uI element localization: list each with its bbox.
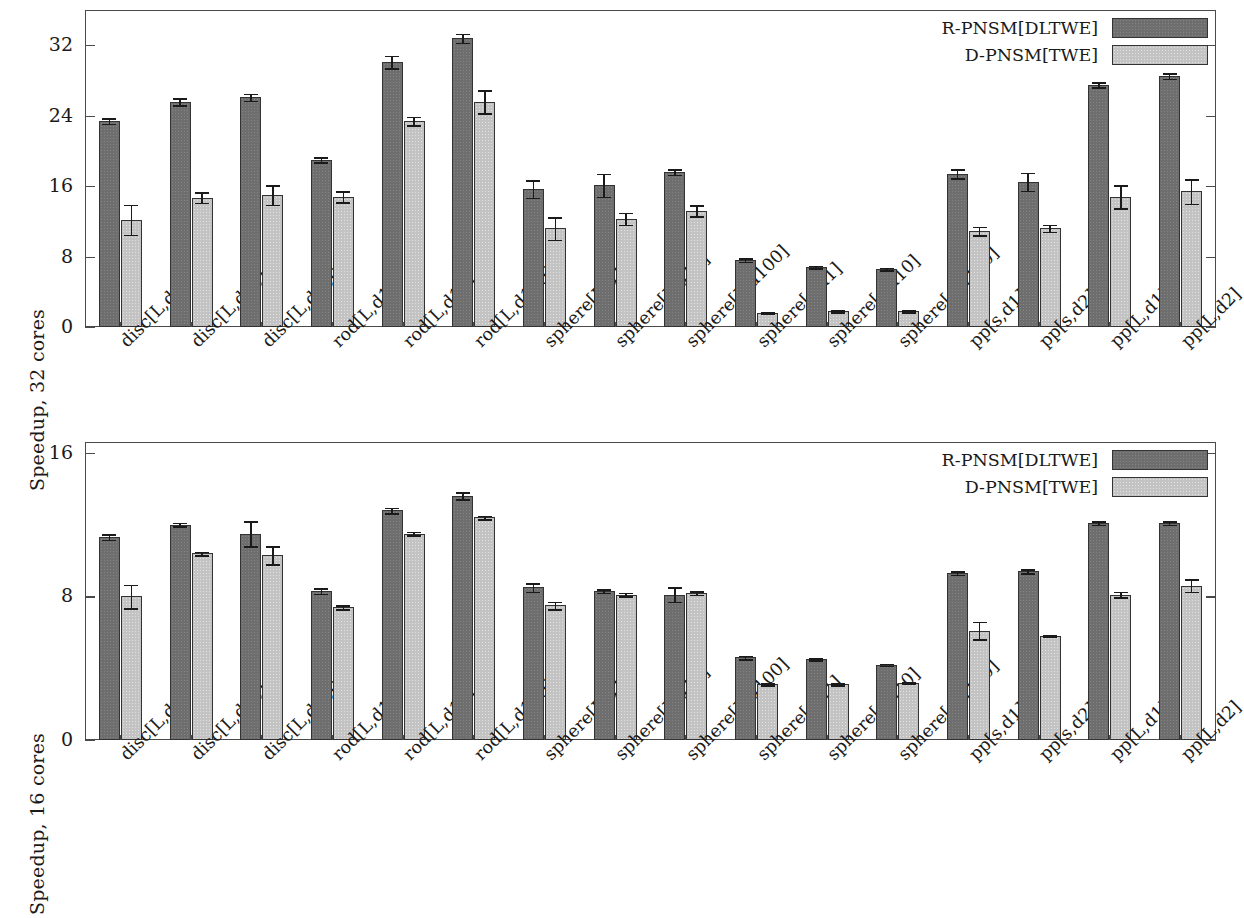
error-bar-cap — [1163, 79, 1177, 81]
error-bar-cap — [102, 534, 116, 536]
y-tick-mark — [1206, 186, 1216, 187]
error-bar-cap — [526, 180, 540, 182]
error-bar-cap — [1092, 521, 1106, 523]
error-bar-cap — [385, 513, 399, 515]
x-tick-mark — [827, 735, 828, 740]
x-tick-mark — [968, 322, 969, 327]
error-bar-cap — [244, 94, 258, 96]
error-bar — [625, 213, 627, 225]
x-tick-mark — [1039, 322, 1040, 327]
error-bar-cap — [266, 205, 280, 207]
legend-entry-r-pnsm: R-PNSM[DLTWE] — [942, 18, 1208, 38]
bar-r-pnsm — [1159, 76, 1180, 327]
error-bar-cap — [173, 98, 187, 100]
error-bar-cap — [1092, 82, 1106, 84]
error-bar-cap — [124, 585, 138, 587]
y-tick-mark — [85, 45, 95, 46]
error-bar-cap — [407, 125, 421, 127]
x-tick-mark — [1039, 735, 1040, 740]
error-bar-cap — [385, 56, 399, 58]
x-tick-mark — [827, 322, 828, 327]
error-bar-cap — [761, 685, 775, 687]
error-bar-cap — [266, 564, 280, 566]
error-bar-cap — [124, 235, 138, 237]
error-bar-cap — [1021, 173, 1035, 175]
bar-r-pnsm — [594, 591, 615, 740]
bar-d-pnsm — [545, 605, 566, 740]
error-bar-cap — [690, 216, 704, 218]
x-tick-mark — [473, 322, 474, 327]
bar-r-pnsm — [452, 38, 473, 327]
bar-r-pnsm — [806, 267, 827, 327]
error-bar-cap — [880, 270, 894, 272]
error-bar-cap — [597, 589, 611, 591]
error-bar-cap — [407, 535, 421, 537]
y-tick-mark — [1206, 257, 1216, 258]
error-bar-cap — [195, 203, 209, 205]
error-bar-cap — [668, 587, 682, 589]
error-bar-cap — [597, 593, 611, 595]
bar-d-pnsm — [474, 517, 495, 740]
error-bar-cap — [1185, 592, 1199, 594]
legend-label-r-pnsm: R-PNSM[DLTWE] — [942, 450, 1098, 470]
bar-d-pnsm — [1110, 595, 1131, 740]
bar-d-pnsm — [262, 555, 283, 740]
error-bar-cap — [761, 314, 775, 316]
x-tick-mark — [190, 735, 191, 740]
error-bar-cap — [951, 571, 965, 573]
error-bar-cap — [336, 202, 350, 204]
x-tick-mark — [120, 735, 121, 740]
x-tick-mark — [685, 322, 686, 327]
bar-r-pnsm — [452, 496, 473, 740]
bar-r-pnsm — [876, 269, 897, 327]
x-tick-mark — [756, 322, 757, 327]
error-bar-cap — [385, 68, 399, 70]
error-bar-cap — [195, 552, 209, 554]
error-bar-cap — [244, 521, 258, 523]
error-bar-cap — [336, 605, 350, 607]
error-bar-cap — [973, 235, 987, 237]
error-bar-cap — [1092, 525, 1106, 527]
error-bar — [979, 622, 981, 640]
y-tick-mark — [85, 596, 95, 597]
x-tick-mark — [1109, 735, 1110, 740]
error-bar-cap — [831, 312, 845, 314]
error-bar-cap — [124, 608, 138, 610]
bar-d-pnsm — [333, 607, 354, 740]
bar-d-pnsm — [1110, 197, 1131, 327]
bar-r-pnsm — [382, 62, 403, 327]
error-bar-cap — [1043, 637, 1057, 639]
error-bar-cap — [597, 174, 611, 176]
bar-r-pnsm — [594, 185, 615, 327]
x-tick-mark — [685, 735, 686, 740]
x-tick-mark — [1180, 322, 1181, 327]
legend-swatch-r-pnsm — [1112, 450, 1208, 470]
bar-d-pnsm — [1040, 636, 1061, 740]
error-bar-cap — [1114, 185, 1128, 187]
bar-r-pnsm — [311, 160, 332, 327]
error-bar-cap — [597, 197, 611, 199]
x-tick-mark — [897, 735, 898, 740]
error-bar-cap — [548, 602, 562, 604]
error-bar-cap — [336, 609, 350, 611]
bar-d-pnsm — [262, 195, 283, 327]
error-bar-cap — [266, 185, 280, 187]
bar-d-pnsm — [1181, 191, 1202, 327]
error-bar — [272, 185, 274, 204]
bar-d-pnsm — [969, 231, 990, 327]
error-bar-cap — [809, 660, 823, 662]
bar-d-pnsm — [121, 596, 142, 740]
error-bar — [674, 587, 676, 601]
bar-d-pnsm — [333, 197, 354, 327]
bar-r-pnsm — [99, 537, 120, 740]
error-bar — [603, 174, 605, 197]
bar-r-pnsm — [523, 189, 544, 327]
bar-d-pnsm — [192, 553, 213, 740]
error-bar-cap — [385, 508, 399, 510]
error-bar-cap — [1021, 191, 1035, 193]
legend-top: R-PNSM[DLTWE] D-PNSM[TWE] — [942, 18, 1208, 65]
x-tick-mark — [332, 322, 333, 327]
error-bar-cap — [548, 609, 562, 611]
legend-entry-d-pnsm: D-PNSM[TWE] — [942, 45, 1208, 65]
error-bar-cap — [336, 191, 350, 193]
